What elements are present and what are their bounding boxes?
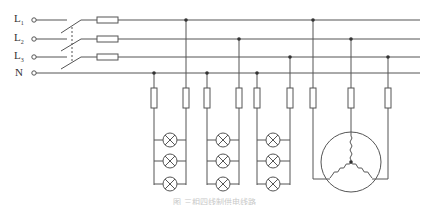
supply-lines: [81, 20, 420, 57]
lamps: [154, 133, 290, 191]
terminal-circles: [32, 18, 36, 75]
lamp-icon: [154, 154, 186, 168]
label-l3-subscript: 3: [21, 57, 24, 63]
label-l3-letter: L: [14, 49, 21, 61]
lamp-icon: [207, 177, 239, 191]
lamp-icon: [154, 133, 186, 147]
lamp-icon: [257, 177, 290, 191]
main-fuses: [97, 17, 118, 60]
lamp-icon: [207, 154, 239, 168]
label-n-letter: N: [15, 66, 23, 78]
lamp-icon: [154, 177, 186, 191]
label-l2: L2: [14, 32, 24, 45]
figure-caption: 图 三相四线制供电线路: [0, 196, 429, 205]
label-l3: L3: [14, 50, 24, 63]
label-l2-subscript: 2: [21, 39, 24, 45]
three-pole-switch: [61, 20, 81, 69]
label-l1-letter: L: [14, 12, 21, 24]
lamp-icon: [257, 133, 290, 147]
label-l1: L1: [14, 13, 24, 26]
lamp-icon: [257, 154, 290, 168]
label-l1-subscript: 1: [21, 20, 24, 26]
label-n: N: [15, 67, 23, 78]
incoming-lines: [36, 20, 420, 73]
label-l2-letter: L: [14, 31, 21, 43]
lamp-icon: [207, 133, 239, 147]
circuit-diagram: [0, 0, 429, 205]
